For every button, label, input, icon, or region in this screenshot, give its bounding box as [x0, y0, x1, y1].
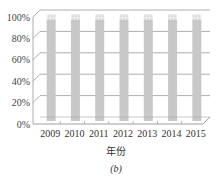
stacked-percent-bar-chart: 0%20%40%60%80%100% 200920102011201220132…	[0, 0, 223, 180]
bar-segment-main	[120, 19, 129, 121]
bars	[47, 14, 202, 121]
x-tick-label: 2013	[137, 128, 157, 139]
y-tick-label: 60%	[12, 54, 30, 65]
bar-segment-top	[71, 14, 80, 19]
y-axis-ticks: 0%20%40%60%80%100%	[7, 12, 30, 130]
bar-segment-main	[168, 19, 177, 121]
bar-segment-main	[47, 19, 56, 121]
bar-segment-main	[95, 19, 104, 121]
figure-caption: (b)	[110, 163, 122, 175]
y-tick-label: 40%	[12, 76, 30, 87]
bar-segment-top	[95, 14, 104, 19]
x-axis-label: 年份	[106, 145, 126, 157]
bar-segment-top	[120, 14, 129, 19]
y-tick-label: 100%	[7, 12, 30, 23]
bar-2011	[95, 14, 104, 121]
bar-segment-top	[192, 14, 201, 19]
y-tick-label: 80%	[12, 33, 30, 44]
bar-2014	[168, 14, 177, 121]
bar-segment-top	[47, 14, 56, 19]
x-tick-label: 2014	[162, 128, 182, 139]
x-tick-label: 2011	[89, 128, 109, 139]
bar-2009	[47, 14, 56, 121]
bar-2012	[120, 14, 129, 121]
y-tick-label: 20%	[12, 97, 30, 108]
x-tick-label: 2015	[186, 128, 206, 139]
x-tick-label: 2010	[64, 128, 84, 139]
bar-segment-main	[192, 19, 201, 121]
y-tick-label: 0%	[17, 119, 30, 130]
bar-segment-top	[144, 14, 153, 19]
bar-2013	[144, 14, 153, 121]
bar-segment-main	[71, 19, 80, 121]
x-tick-label: 2009	[40, 128, 60, 139]
x-tick-label: 2012	[113, 128, 133, 139]
bar-segment-top	[168, 14, 177, 19]
bar-segment-main	[144, 19, 153, 121]
bar-2015	[192, 14, 201, 121]
bar-2010	[71, 14, 80, 121]
